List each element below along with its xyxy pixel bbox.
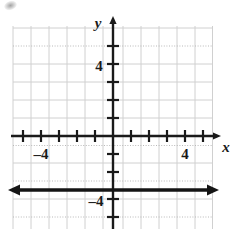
y-axis-label: y xyxy=(93,15,102,31)
coordinate-plane-svg: y x –4 4 4 –4 xyxy=(0,0,233,229)
labels-layer: y x –4 4 4 –4 xyxy=(33,15,231,209)
graph-figure: y x –4 4 4 –4 xyxy=(0,0,233,229)
x-tick-label-negative-four: –4 xyxy=(33,146,50,162)
x-tick-label-positive-four: 4 xyxy=(181,146,189,162)
line-arrowhead-left xyxy=(8,185,20,196)
y-tick-label-negative-four: –4 xyxy=(88,193,105,209)
axes-layer xyxy=(11,16,221,229)
x-axis-label: x xyxy=(221,139,230,155)
y-axis-arrowhead xyxy=(109,16,116,24)
x-axis-arrowhead xyxy=(213,132,221,139)
y-tick-label-positive-four: 4 xyxy=(95,58,103,74)
